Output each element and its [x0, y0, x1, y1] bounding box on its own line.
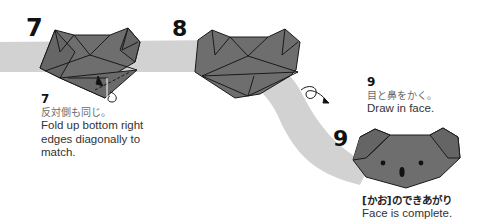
- step-7-caption-en-line-3: match.: [41, 146, 161, 160]
- final-caption-en: Face is complete.: [362, 207, 477, 221]
- step-7-number: 7: [26, 14, 43, 42]
- left-eye: [381, 161, 386, 166]
- step-7-caption-en-line-2: edges diagonally to: [41, 133, 161, 147]
- step-7-caption: 7 反対側も同じ。 Fold up bottom right edges dia…: [41, 93, 161, 160]
- step-9-caption-en: Draw in face.: [367, 102, 477, 116]
- final-caption: [かお]のできあがり Face is complete.: [362, 194, 477, 221]
- nose: [399, 167, 404, 177]
- koala-face-figure: [353, 128, 460, 188]
- step-7-caption-jp: 反対側も同じ。: [41, 106, 161, 119]
- right-eye: [419, 161, 424, 166]
- step-9-number: 9: [333, 126, 348, 151]
- step-7-caption-en-line-1: Fold up bottom right: [41, 119, 161, 133]
- step-7-caption-number: 7: [41, 93, 161, 106]
- step-9-caption-number: 9: [367, 76, 477, 89]
- step-9-caption: 9 目と鼻をかく。 Draw in face.: [367, 76, 477, 116]
- final-caption-jp: [かお]のできあがり: [362, 194, 477, 207]
- step-7-figure: [40, 28, 140, 102]
- step-8-number: 8: [172, 16, 187, 41]
- step-9-caption-jp: 目と鼻をかく。: [367, 89, 477, 102]
